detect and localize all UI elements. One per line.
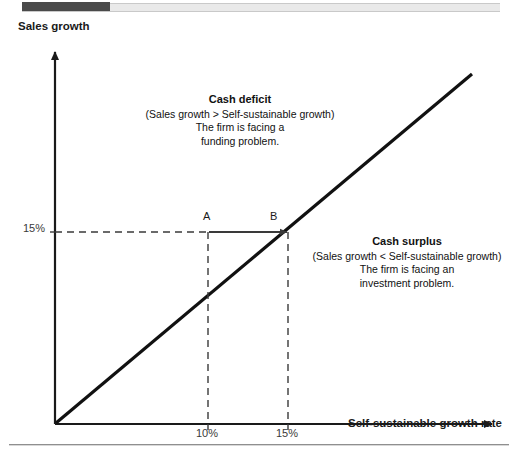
cash-deficit-line-3: funding problem. [112,135,368,149]
cash-surplus-annotation: Cash surplus (Sales growth < Self-sustai… [292,235,522,290]
cash-deficit-line-2: The firm is facing a [112,121,368,135]
y-tick-label-15: 15% [23,222,45,235]
y-axis-title: Sales growth [18,20,90,33]
cash-deficit-annotation: Cash deficit (Sales growth > Self-sustai… [112,93,368,148]
chart-svg [0,0,522,458]
cash-surplus-line-2: The firm is facing an [292,263,522,277]
cash-deficit-heading: Cash deficit [112,93,368,107]
x-tick-label-15: 15% [276,427,298,440]
cash-deficit-line-1: (Sales growth > Self-sustainable growth) [112,108,368,122]
point-b-label: B [270,210,277,223]
cash-surplus-line-3: investment problem. [292,277,522,291]
cash-surplus-line-1: (Sales growth < Self-sustainable growth) [292,250,522,264]
chart-canvas [0,0,522,458]
point-a-label: A [203,210,210,223]
x-tick-label-10: 10% [196,427,218,440]
cash-surplus-heading: Cash surplus [292,235,522,249]
x-axis-title: Self-sustainable growth rate [348,417,502,430]
